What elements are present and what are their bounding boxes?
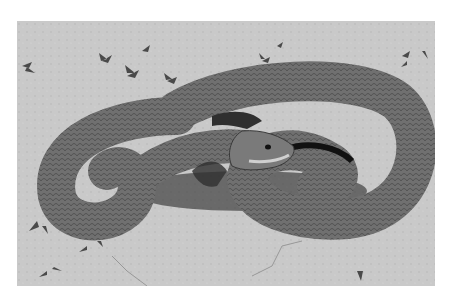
snake-eye — [265, 145, 271, 150]
snake-photo — [17, 21, 435, 286]
snake-photo-illustration — [17, 21, 435, 286]
